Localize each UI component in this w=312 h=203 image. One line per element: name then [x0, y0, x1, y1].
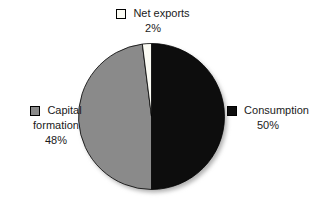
capital-formation-value: 48% — [10, 133, 102, 148]
legend-net-exports: Net exports 2% — [88, 6, 218, 36]
capital-formation-label-line1: Capital — [47, 103, 81, 118]
net-exports-swatch-icon — [116, 9, 126, 19]
consumption-label: Consumption — [244, 103, 309, 118]
consumption-swatch-icon — [227, 106, 237, 116]
legend-capital-formation: Capital formation 48% — [10, 103, 102, 148]
pie-chart-figure: Net exports 2% Capital formation 48% Con… — [0, 0, 312, 203]
capital-formation-swatch-icon — [30, 106, 40, 116]
pie-slice-consumption — [152, 44, 225, 190]
capital-formation-label-line2: formation — [10, 118, 102, 133]
net-exports-value: 2% — [88, 21, 218, 36]
consumption-value: 50% — [224, 118, 312, 133]
legend-consumption: Consumption 50% — [224, 103, 312, 133]
net-exports-label: Net exports — [133, 6, 189, 21]
